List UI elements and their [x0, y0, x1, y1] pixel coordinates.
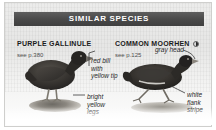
callout-red-bill: red bill with yellow tip [91, 57, 118, 80]
species-name-row: PURPLE GALLINULE [17, 32, 91, 50]
bottom-fade [6, 107, 212, 125]
callout-line: flank [187, 99, 203, 107]
callout-line: bright [87, 93, 105, 101]
figure-title: SIMILAR SPECIES [69, 15, 149, 23]
species-heading-purple-gallinule: PURPLE GALLINULE see p.380 [17, 32, 91, 59]
similar-species-figure: SIMILAR SPECIES [0, 0, 216, 130]
figure-header-band: SIMILAR SPECIES [14, 12, 204, 26]
range-map-dot-icon [193, 41, 199, 47]
callout-gray-head: gray head [155, 46, 184, 54]
callout-line: with [91, 65, 118, 73]
callout-line: white [187, 91, 203, 99]
callout-line: gray head [155, 46, 184, 54]
figure-plate: SIMILAR SPECIES [4, 2, 212, 127]
species-name-left: PURPLE GALLINULE [17, 39, 91, 48]
callout-line: yellow tip [91, 72, 118, 80]
callout-line: red bill [91, 57, 118, 65]
species-page-ref-left[interactable]: see p.380 [17, 51, 91, 59]
